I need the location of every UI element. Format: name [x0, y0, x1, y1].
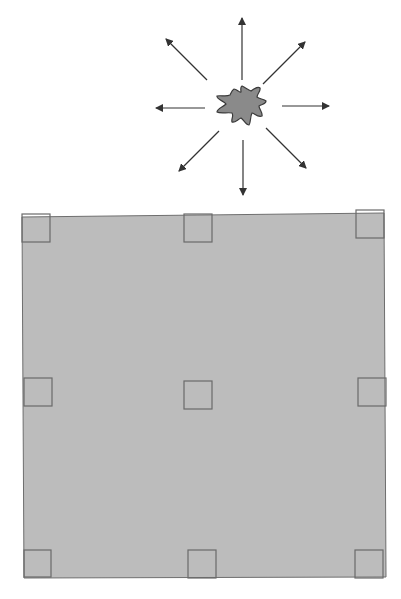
arrow-up-left-icon: [166, 39, 207, 80]
diagram-canvas: [0, 0, 401, 599]
blob-shape-icon: [217, 86, 266, 125]
arrow-up-right-icon: [263, 42, 305, 84]
burst-group: [156, 18, 329, 195]
arrow-down-left-icon: [179, 131, 219, 171]
plate-group: [22, 210, 386, 578]
arrow-down-right-icon: [266, 128, 306, 168]
square-plate: [22, 213, 386, 578]
